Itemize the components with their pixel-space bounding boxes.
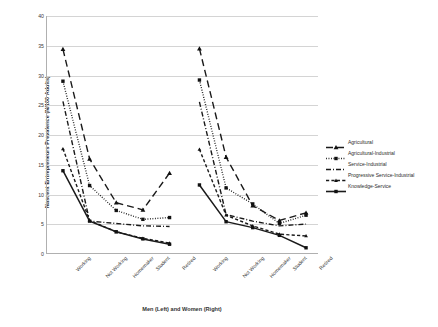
chart-figure: Nascent Entrepreneurs Prevalence (N/100 … xyxy=(0,0,438,327)
x-axis-tick-homemaker: Homemaker xyxy=(268,255,292,279)
legend-key-icon xyxy=(326,149,346,158)
x-axis-tick-student: Student xyxy=(154,255,171,272)
data-point-marker xyxy=(168,216,171,219)
x-axis-tick-student: Student xyxy=(291,255,308,272)
data-point-marker xyxy=(198,147,202,150)
data-point-marker xyxy=(88,184,91,187)
legend-key-icon xyxy=(326,160,346,169)
legend-item-progressive-service-industrial[interactable]: Progressive Service-Industrial xyxy=(326,170,436,181)
legend-item-label: Agricultural-Industrial xyxy=(348,151,395,156)
legend-key-icon xyxy=(326,138,346,147)
legend-item-label: Agricultural xyxy=(348,140,373,145)
x-axis-tick-retired: Retired xyxy=(318,255,334,271)
y-axis-tick-0: 0 xyxy=(24,251,44,257)
series-line xyxy=(199,80,306,223)
x-axis-tick-not-working: Not Working xyxy=(104,255,128,279)
data-point-marker xyxy=(224,220,227,223)
x-axis-tick-working: Working xyxy=(211,255,228,272)
series-line xyxy=(63,81,170,219)
legend-item-label: Service-Industrial xyxy=(348,162,387,167)
series-lines xyxy=(47,16,318,253)
data-point-marker xyxy=(88,219,91,222)
legend-item-knowledge-service[interactable]: Knowledge-Service xyxy=(326,181,436,192)
y-axis-tick-labels: 0510152025303540 xyxy=(24,16,44,254)
legend-item-label: Progressive Service-Industrial xyxy=(348,173,414,178)
series-progressive-service-industrial xyxy=(61,147,308,245)
y-axis-tick-10: 10 xyxy=(24,192,44,198)
data-point-marker xyxy=(278,222,281,225)
legend-item-service-industrial[interactable]: Service-Industrial xyxy=(326,159,436,170)
y-axis-tick-15: 15 xyxy=(24,162,44,168)
data-point-marker xyxy=(168,243,171,246)
data-point-marker xyxy=(304,246,307,249)
series-line xyxy=(199,49,306,221)
x-axis-tick-working: Working xyxy=(74,255,91,272)
series-agricultural xyxy=(61,46,309,222)
series-line xyxy=(199,149,306,236)
plot-area xyxy=(46,16,318,254)
data-point-marker xyxy=(167,171,172,175)
chart-legend: AgriculturalAgricultural-IndustrialServi… xyxy=(326,137,436,192)
data-point-marker xyxy=(334,190,337,193)
x-axis-tick-retired: Retired xyxy=(181,255,197,271)
data-point-marker xyxy=(115,209,118,212)
x-axis-tick-labels: WorkingNot WorkingHomemakerStudentRetire… xyxy=(46,255,318,301)
series-agricultural-industrial xyxy=(61,78,307,225)
legend-item-label: Knowledge-Service xyxy=(348,184,391,189)
series-service-industrial xyxy=(63,101,306,226)
data-point-marker xyxy=(224,186,227,189)
data-point-marker xyxy=(197,46,202,50)
y-axis-tick-30: 30 xyxy=(24,73,44,79)
data-point-marker xyxy=(198,183,201,186)
y-axis-tick-5: 5 xyxy=(24,221,44,227)
data-point-marker xyxy=(61,147,65,150)
x-axis-tick-homemaker: Homemaker xyxy=(131,255,155,279)
y-axis-tick-35: 35 xyxy=(24,43,44,49)
data-point-marker xyxy=(61,80,64,83)
data-point-marker xyxy=(115,230,118,233)
x-axis-tick-not-working: Not Working xyxy=(241,255,265,279)
data-point-marker xyxy=(87,156,92,160)
y-axis-tick-40: 40 xyxy=(24,13,44,19)
legend-item-agricultural[interactable]: Agricultural xyxy=(326,137,436,148)
y-axis-tick-20: 20 xyxy=(24,132,44,138)
data-point-marker xyxy=(61,47,66,51)
legend-item-agricultural-industrial[interactable]: Agricultural-Industrial xyxy=(326,148,436,159)
data-point-marker xyxy=(61,169,64,172)
x-axis-title: Men (Left) and Women (Right) xyxy=(46,306,318,312)
legend-key-icon xyxy=(326,171,346,180)
y-axis-tick-25: 25 xyxy=(24,102,44,108)
data-point-marker xyxy=(141,218,144,221)
data-point-marker xyxy=(304,213,307,216)
series-knowledge-service xyxy=(61,169,307,249)
series-line xyxy=(199,185,306,248)
data-point-marker xyxy=(141,237,144,240)
data-point-marker xyxy=(114,200,119,204)
data-point-marker xyxy=(251,226,254,229)
data-point-marker xyxy=(198,78,201,81)
data-point-marker xyxy=(278,234,281,237)
data-point-marker xyxy=(224,155,229,159)
legend-key-icon xyxy=(326,182,346,191)
series-line xyxy=(63,49,170,210)
data-point-marker xyxy=(251,202,254,205)
series-line xyxy=(63,101,170,226)
